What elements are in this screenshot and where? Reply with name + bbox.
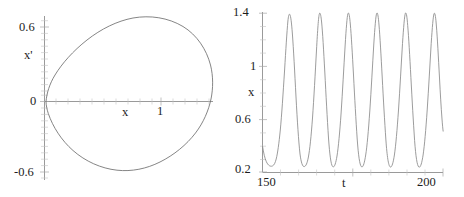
phase-y-axis-label: x' <box>24 49 33 62</box>
series-x-tick-label-150: 150 <box>257 176 276 189</box>
phase-origin-label: 0 <box>30 95 36 108</box>
series-x-axis-label: t <box>342 177 345 190</box>
phase-y-tick-label-bottom: -0.6 <box>14 166 34 179</box>
oscillation-trace <box>263 13 444 167</box>
series-y-axis-label: x <box>248 86 254 99</box>
limit-cycle-curve <box>46 17 213 171</box>
phase-y-tick-label-top: 0.6 <box>19 21 35 34</box>
figure-container: 0.6 x' 0 -0.6 x 1 <box>0 0 464 197</box>
series-y-tick-label-0-2: 0.2 <box>235 163 251 176</box>
time-series-panel: 1.4 1 x 0.6 0.2 150 t 200 <box>232 0 464 197</box>
time-series-svg <box>232 0 464 197</box>
phase-x-tick-label-1: 1 <box>157 105 163 118</box>
series-y-tick-label-0-6: 0.6 <box>235 113 251 126</box>
phase-x-axis-label: x <box>122 106 128 119</box>
series-y-tick-label-1: 1 <box>250 60 256 73</box>
series-y-tick-label-1-4: 1.4 <box>233 6 249 19</box>
phase-portrait-panel: 0.6 x' 0 -0.6 x 1 <box>0 0 232 197</box>
series-x-tick-label-200: 200 <box>417 176 436 189</box>
